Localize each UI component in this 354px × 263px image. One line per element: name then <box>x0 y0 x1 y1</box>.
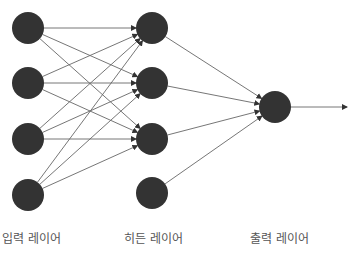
hidden-output-edge <box>165 37 261 99</box>
output-layer-label: 출력 레이어 <box>250 229 309 246</box>
input-node <box>12 12 44 44</box>
hidden-output-edge <box>165 116 262 184</box>
hidden-node <box>136 123 168 155</box>
hidden-node <box>136 12 168 44</box>
hidden-output-edge <box>168 86 260 104</box>
input-hidden-edge <box>38 41 143 182</box>
neural-network-diagram <box>0 0 354 263</box>
connection-edges <box>38 28 347 188</box>
hidden-output-edge <box>167 111 259 135</box>
hidden-node <box>136 177 168 209</box>
input-node <box>12 123 44 155</box>
hidden-node <box>136 67 168 99</box>
input-hidden-edge <box>43 146 138 189</box>
hidden-layer-label: 히든 레이어 <box>124 229 183 246</box>
neuron-nodes <box>12 12 291 211</box>
input-node <box>12 179 44 211</box>
output-node <box>259 91 291 123</box>
input-layer-label: 입력 레이어 <box>2 229 61 246</box>
input-node <box>12 67 44 99</box>
